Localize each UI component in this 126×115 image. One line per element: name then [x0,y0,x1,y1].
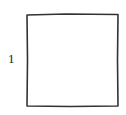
square-shape [0,0,126,115]
